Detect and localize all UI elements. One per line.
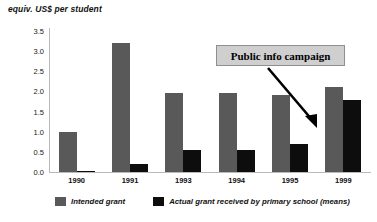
legend-item-intended: Intended grant: [55, 197, 125, 206]
legend-swatch-intended: [55, 197, 66, 206]
bar-1995-intended: [272, 95, 290, 172]
chart-legend: Intended grant Actual grant received by …: [55, 197, 350, 206]
y-tick-label: 2.0: [18, 87, 44, 96]
bar-1999-intended: [325, 87, 343, 172]
bar-1990-intended: [59, 132, 77, 172]
legend-label-intended: Intended grant: [71, 197, 125, 206]
bar-1993-actual: [183, 150, 201, 172]
annotation-public-info-campaign: Public info campaign: [216, 45, 345, 66]
legend-item-actual: Actual grant received by primary school …: [153, 197, 350, 206]
bar-1991-actual: [130, 164, 148, 172]
bar-1999-actual: [343, 100, 361, 173]
bar-1990-actual: [77, 171, 95, 172]
y-axis-tick-labels: 3.53.02.52.01.51.00.50.0: [14, 0, 44, 222]
legend-label-actual: Actual grant received by primary school …: [169, 197, 350, 206]
y-tick-label: 0.0: [18, 168, 44, 177]
bar-group-1990: [59, 31, 95, 172]
x-tick-label-1994: 1994: [219, 176, 255, 185]
x-axis-line: [49, 172, 371, 173]
bar-group-1991: [112, 31, 148, 172]
y-tick-label: 2.5: [18, 67, 44, 76]
bar-1994-intended: [219, 93, 237, 172]
x-tick-label-1991: 1991: [112, 176, 148, 185]
y-tick-label: 3.0: [18, 47, 44, 56]
x-tick-label-1990: 1990: [59, 176, 95, 185]
y-tick-label: 0.5: [18, 147, 44, 156]
x-tick-label-1995: 1995: [272, 176, 308, 185]
legend-swatch-actual: [153, 197, 164, 206]
bar-1995-actual: [290, 144, 308, 172]
bar-1993-intended: [165, 93, 183, 172]
bar-1994-actual: [237, 150, 255, 172]
y-tick-label: 3.5: [18, 27, 44, 36]
bar-group-1993: [165, 31, 201, 172]
x-tick-label-1999: 1999: [325, 176, 361, 185]
bar-1991-intended: [112, 43, 130, 172]
bar-chart: equiv. US$ per student 3.53.02.52.01.51.…: [0, 0, 377, 222]
y-tick-label: 1.0: [18, 127, 44, 136]
y-tick-label: 1.5: [18, 107, 44, 116]
x-tick-label-1993: 1993: [165, 176, 201, 185]
